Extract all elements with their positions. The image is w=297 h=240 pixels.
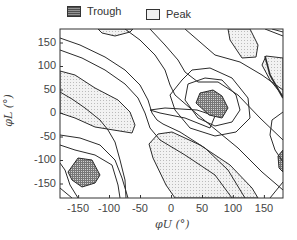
y-tick-50: 50 (30, 83, 56, 95)
peak-region-right (262, 56, 283, 96)
x-tick-neg100: -100 (94, 202, 124, 214)
y-tick-150: 150 (30, 36, 56, 48)
x-tick-neg150: -150 (63, 202, 93, 214)
peak-region-top-right (228, 29, 258, 58)
y-tick-neg50: -50 (30, 130, 56, 142)
y-tick-neg100: -100 (30, 153, 56, 165)
peak-region-top (98, 29, 133, 36)
x-tick-neg50: -50 (125, 202, 155, 214)
peak-region-left (60, 71, 135, 133)
x-tick-150: 150 (249, 202, 279, 214)
y-tick-100: 100 (30, 59, 56, 71)
y-axis-title: φL (°) (2, 94, 15, 127)
peak-region-bottom-center (149, 132, 258, 198)
x-axis-title: φU (°) (155, 218, 190, 231)
x-tick-0: 0 (156, 202, 186, 214)
x-tick-100: 100 (218, 202, 248, 214)
x-tick-50: 50 (187, 202, 217, 214)
y-tick-neg150: -150 (30, 177, 56, 189)
trough-region-center (196, 90, 228, 118)
trough-region-bottom-left (68, 158, 100, 187)
y-tick-0: 0 (30, 106, 56, 118)
